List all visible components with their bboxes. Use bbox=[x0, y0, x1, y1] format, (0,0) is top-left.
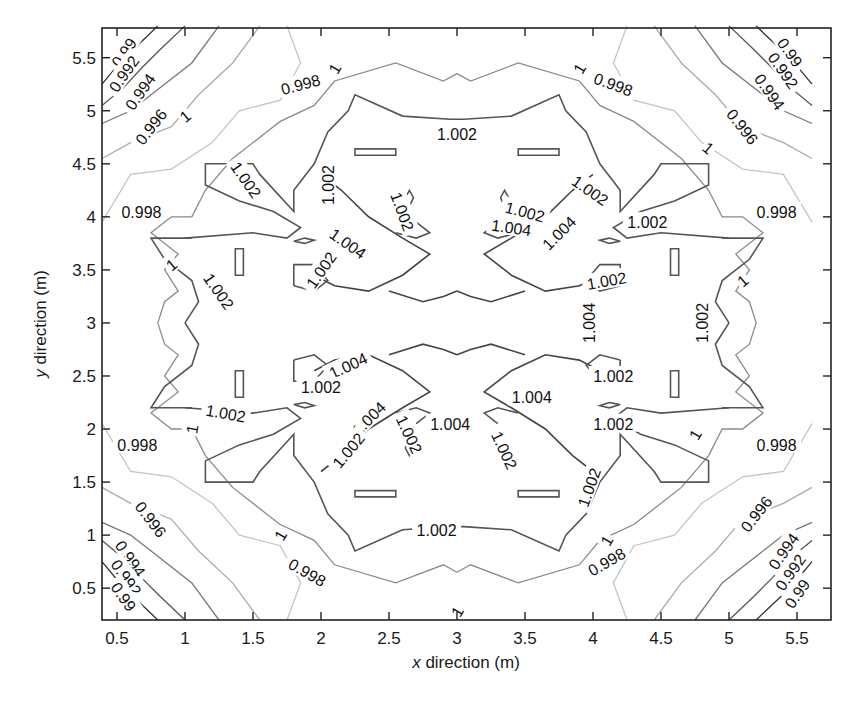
contour-label: 0.998 bbox=[757, 204, 797, 221]
y-tick-label: 3 bbox=[87, 314, 96, 333]
contour-label: 0.996 bbox=[723, 106, 761, 148]
x-tick-label: 0.5 bbox=[105, 629, 129, 648]
x-tick-label: 4 bbox=[588, 629, 597, 648]
y-tick-label: 1 bbox=[87, 526, 96, 545]
y-tick-label: 2 bbox=[87, 420, 96, 439]
contour-line-1-002 bbox=[671, 371, 679, 398]
y-tick-label: 4.5 bbox=[72, 155, 96, 174]
y-tick-label: 2.5 bbox=[72, 367, 96, 386]
contour-label: 1.002 bbox=[200, 270, 237, 313]
contour-label: 1.004 bbox=[581, 303, 598, 343]
contour-line-1-002 bbox=[518, 491, 559, 497]
contour-label: 0.998 bbox=[279, 71, 322, 98]
contour-line-1-002 bbox=[671, 249, 679, 276]
contour-line-1-002 bbox=[484, 408, 518, 424]
contour-label: 0.996 bbox=[738, 493, 776, 535]
contour-label: 0.996 bbox=[132, 499, 170, 541]
contour-label: 0.998 bbox=[121, 204, 161, 221]
y-tick-label: 5.5 bbox=[72, 49, 96, 68]
x-tick-label: 2.5 bbox=[377, 629, 401, 648]
x-tick-label: 3.5 bbox=[513, 629, 537, 648]
x-tick-label: 2 bbox=[316, 629, 325, 648]
y-tick-label: 1.5 bbox=[72, 473, 96, 492]
contour-label: 0.998 bbox=[117, 437, 157, 454]
contour-label: 1.002 bbox=[593, 368, 633, 385]
y-tick-label: 0.5 bbox=[72, 579, 96, 598]
contour-label: 0.998 bbox=[286, 555, 329, 590]
contour-label: 1.002 bbox=[593, 416, 633, 433]
contour-label: 0.998 bbox=[757, 437, 797, 454]
contour-line-1-002 bbox=[518, 149, 559, 155]
y-tick-label: 4 bbox=[87, 208, 96, 227]
contour-label: 1.002 bbox=[417, 522, 457, 539]
contour-label: 1.002 bbox=[627, 214, 667, 231]
x-tick-label: 1.5 bbox=[241, 629, 265, 648]
contour-line-1-002 bbox=[294, 238, 314, 243]
contour-line-1-002 bbox=[355, 149, 396, 155]
contour-line-1-004 bbox=[457, 344, 525, 355]
x-axis-title: x direction (m) bbox=[411, 653, 520, 672]
contour-line-1-002 bbox=[235, 371, 243, 398]
contour-label: 1.002 bbox=[694, 303, 711, 343]
contour-line-1-004 bbox=[457, 291, 525, 302]
x-tick-label: 1 bbox=[180, 629, 189, 648]
contour-label: 1.004 bbox=[512, 389, 552, 406]
contour-label: 1.002 bbox=[301, 379, 341, 396]
contour-line-1-002 bbox=[235, 249, 243, 276]
contour-label: 1.002 bbox=[227, 159, 264, 202]
y-axis-title: y direction (m) bbox=[31, 270, 50, 379]
contour-label: 1.002 bbox=[437, 126, 477, 143]
x-tick-label: 4.5 bbox=[649, 629, 673, 648]
y-tick-label: 5 bbox=[87, 102, 96, 121]
x-tick-label: 5 bbox=[724, 629, 733, 648]
x-tick-label: 3 bbox=[452, 629, 461, 648]
contour-line-1-002 bbox=[600, 238, 620, 243]
contour-label: 0.996 bbox=[132, 106, 170, 148]
x-tick-label: 5.5 bbox=[785, 629, 809, 648]
contour-label: 1.002 bbox=[569, 172, 612, 209]
y-tick-label: 3.5 bbox=[72, 261, 96, 280]
contour-chart: 0.990.9920.9940.99610.9980.99811.00210.9… bbox=[0, 0, 862, 701]
plot-frame bbox=[102, 28, 831, 620]
contour-label: 1.002 bbox=[320, 165, 337, 205]
contour-line-1-002 bbox=[600, 403, 620, 408]
contour-label: 1.004 bbox=[430, 416, 470, 433]
contour-line-1-002 bbox=[355, 491, 396, 497]
contour-line-1-004 bbox=[389, 344, 457, 355]
contour-line-1-002 bbox=[294, 403, 314, 408]
contour-label: 1.002 bbox=[204, 402, 246, 426]
contour-line-1-004 bbox=[389, 291, 457, 302]
